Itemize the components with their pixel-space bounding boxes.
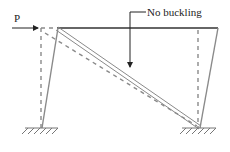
braced-frame-diagram: P No buckling — [0, 0, 230, 152]
right-column — [200, 28, 218, 128]
load-label: P — [14, 12, 20, 24]
diagonal-brace — [56, 27, 201, 129]
annotation-label: No buckling — [147, 6, 202, 18]
left-fixed-support — [22, 128, 58, 134]
deformed-shape-dashed — [41, 28, 198, 128]
left-column — [42, 28, 58, 128]
annotation-leader — [130, 12, 146, 67]
